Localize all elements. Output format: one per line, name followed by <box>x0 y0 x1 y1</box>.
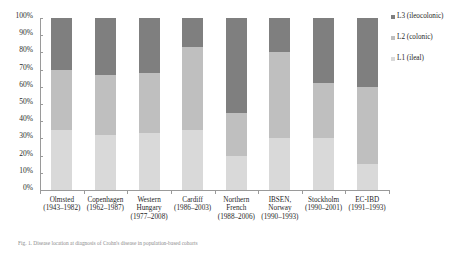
legend-label: L3 (ileocolonic) <box>397 12 444 21</box>
legend-swatch-icon <box>391 57 395 61</box>
x-axis-label-line: Hungary <box>127 204 171 212</box>
bar-column[interactable] <box>182 18 203 190</box>
bar-segment-l3[interactable] <box>139 18 160 73</box>
x-axis-label-line: Northern <box>215 196 259 204</box>
bar-segment-l1[interactable] <box>269 138 290 190</box>
y-tick-label: 30% <box>19 132 33 140</box>
bar-column[interactable] <box>226 18 247 190</box>
bar-segment-l2[interactable] <box>313 83 334 138</box>
bar-segment-l1[interactable] <box>313 138 334 190</box>
bar-column[interactable] <box>51 18 72 190</box>
x-axis-label-line: (1977–2008) <box>127 213 171 221</box>
x-axis-label-line: IBSEN, <box>258 196 302 204</box>
bar-column[interactable] <box>357 18 378 190</box>
y-tick-label: 50% <box>19 98 33 106</box>
bar-segment-l2[interactable] <box>226 113 247 156</box>
legend-item[interactable]: L2 (colonic) <box>391 35 451 56</box>
bar-segment-l3[interactable] <box>313 18 334 83</box>
bar-segment-l3[interactable] <box>226 18 247 113</box>
x-axis-category-label: NorthernFrench(1988–2006) <box>215 196 259 221</box>
x-axis-label-line: (1988–2006) <box>215 213 259 221</box>
x-axis-label-line: (1962–1987) <box>84 204 128 212</box>
x-axis-label-line: Norway <box>258 204 302 212</box>
bar-segment-l1[interactable] <box>226 156 247 190</box>
y-tick-label: 90% <box>19 29 33 37</box>
x-axis-label-line: (1943–1982) <box>40 204 84 212</box>
legend-label: L2 (colonic) <box>397 33 433 42</box>
bar-segment-l3[interactable] <box>95 18 116 75</box>
x-axis-category-label: Olmsted(1943–1982) <box>40 196 84 213</box>
y-tick-label: 70% <box>19 64 33 72</box>
x-axis-label-line: French <box>215 204 259 212</box>
x-tick-mark <box>40 190 41 194</box>
x-axis-category-label: IBSEN,Norway(1990–1993) <box>258 196 302 221</box>
x-tick-mark <box>127 190 128 194</box>
bar-segment-l2[interactable] <box>51 70 72 130</box>
bar-column[interactable] <box>95 18 116 190</box>
x-tick-mark <box>215 190 216 194</box>
bar-segment-l1[interactable] <box>357 164 378 190</box>
bar-segment-l3[interactable] <box>51 18 72 70</box>
x-axis-category-label: WesternHungary(1977–2008) <box>127 196 171 221</box>
figure-caption: Fig. 1. Disease location at diagnosis of… <box>18 240 438 247</box>
x-axis-category-label: Copenhagen(1962–1987) <box>84 196 128 213</box>
y-tick-label: 60% <box>19 81 33 89</box>
bar-column[interactable] <box>313 18 334 190</box>
x-tick-mark <box>345 190 346 194</box>
y-tick-label: 10% <box>19 167 33 175</box>
x-axis-label-line: (1990–2001) <box>302 204 346 212</box>
bar-column[interactable] <box>269 18 290 190</box>
legend-item[interactable]: L1 (ileal) <box>391 56 451 77</box>
y-tick-label: 20% <box>19 150 33 158</box>
bar-segment-l1[interactable] <box>51 130 72 190</box>
legend-swatch-icon <box>391 36 395 40</box>
bars-layer <box>40 18 389 190</box>
bar-segment-l1[interactable] <box>139 133 160 190</box>
x-axis-label-line: Copenhagen <box>84 196 128 204</box>
figure-container: 100%90%80%70%60%50%40%30%20%10%0% Olmste… <box>0 0 451 253</box>
bar-segment-l2[interactable] <box>182 47 203 130</box>
bar-segment-l2[interactable] <box>357 87 378 164</box>
x-axis-label-line: Cardiff <box>171 196 215 204</box>
y-tick-label: 40% <box>19 115 33 123</box>
bar-segment-l2[interactable] <box>139 73 160 133</box>
x-axis-label-line: (1991–1993) <box>345 204 389 212</box>
y-tick-label: 0% <box>23 184 33 192</box>
bar-segment-l3[interactable] <box>269 18 290 52</box>
y-tick-label: 80% <box>19 46 33 54</box>
x-tick-mark <box>84 190 85 194</box>
bar-segment-l1[interactable] <box>182 130 203 190</box>
legend-swatch-icon <box>391 15 395 19</box>
legend-label: L1 (ileal) <box>397 54 424 63</box>
chart-legend: L3 (ileocolonic)L2 (colonic)L1 (ileal) <box>391 14 451 77</box>
x-axis-labels: Olmsted(1943–1982)Copenhagen(1962–1987)W… <box>40 196 389 236</box>
x-tick-mark <box>258 190 259 194</box>
legend-item[interactable]: L3 (ileocolonic) <box>391 14 451 35</box>
x-axis-label-line: EC-IBD <box>345 196 389 204</box>
bar-segment-l3[interactable] <box>182 18 203 47</box>
x-axis-label-line: Western <box>127 196 171 204</box>
x-axis-label-line: Olmsted <box>40 196 84 204</box>
x-tick-mark <box>171 190 172 194</box>
x-axis-label-line: (1986–2003) <box>171 204 215 212</box>
bar-column[interactable] <box>139 18 160 190</box>
x-axis-label-line: Stockholm <box>302 196 346 204</box>
x-axis-category-label: EC-IBD(1991–1993) <box>345 196 389 213</box>
x-axis-category-label: Cardiff(1986–2003) <box>171 196 215 213</box>
bar-segment-l2[interactable] <box>269 52 290 138</box>
y-tick-label: 100% <box>16 12 34 20</box>
x-tick-mark <box>302 190 303 194</box>
bar-segment-l2[interactable] <box>95 75 116 135</box>
bar-segment-l3[interactable] <box>357 18 378 87</box>
x-tick-mark <box>389 190 390 194</box>
bar-segment-l1[interactable] <box>95 135 116 190</box>
x-axis-category-label: Stockholm(1990–2001) <box>302 196 346 213</box>
x-axis-label-line: (1990–1993) <box>258 213 302 221</box>
